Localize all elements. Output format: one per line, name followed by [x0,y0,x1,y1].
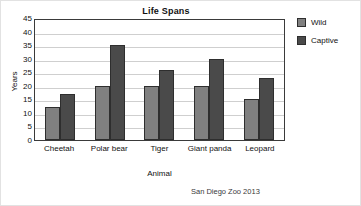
plot-area [34,19,285,141]
bar-tiger-wild[interactable] [144,86,159,140]
bar-leopard-wild[interactable] [244,99,259,140]
y-axis-tick-label: 20 [11,83,32,91]
bar-tiger-captive[interactable] [159,70,174,140]
y-axis-tick-label: 10 [11,110,32,118]
y-axis-tick-label: 45 [11,15,32,23]
x-axis-tick-labels: CheetahPolar bearTigerGiant pandaLeopard [34,144,285,170]
bar-cheetah-wild[interactable] [45,107,60,140]
bar-group [144,20,174,140]
y-axis-tick-label: 30 [11,56,32,64]
legend-entry-wild[interactable]: Wild [297,18,338,27]
legend-label: Captive [311,36,338,45]
bar-group [244,20,274,140]
legend-swatch-icon [297,18,306,27]
bar-polar-bear-wild[interactable] [95,86,110,140]
bar-giant-panda-captive[interactable] [209,59,224,140]
y-axis-tick-label: 35 [11,42,32,50]
bar-group [95,20,125,140]
legend-entry-captive[interactable]: Captive [297,36,338,45]
bar-cheetah-captive[interactable] [60,94,75,140]
bar-giant-panda-wild[interactable] [194,86,209,140]
x-axis-tick-label: Tiger [135,144,183,170]
bar-group [45,20,75,140]
x-axis-title: Animal [34,169,285,178]
y-axis-tick-labels: 454035302520151050 [11,19,32,141]
x-axis-tick-label: Cheetah [35,144,83,170]
chart-figure: Life Spans Years 454035302520151050 Chee… [0,0,361,206]
y-axis-tick-label: 15 [11,96,32,104]
bars-layer [35,20,284,140]
bar-polar-bear-captive[interactable] [110,45,125,140]
x-axis-tick-label: Leopard [236,144,284,170]
source-note: San Diego Zoo 2013 [191,187,260,196]
legend-swatch-icon [297,36,306,45]
bar-leopard-captive[interactable] [259,78,274,140]
chart-title: Life Spans [41,6,291,16]
y-axis-tick-label: 0 [11,137,32,145]
x-axis-tick-label: Polar bear [85,144,133,170]
bar-group [194,20,224,140]
chart-legend: WildCaptive [297,18,338,54]
y-axis-tick-label: 25 [11,69,32,77]
legend-label: Wild [311,18,327,27]
y-axis-tick-label: 40 [11,29,32,37]
x-axis-tick-label: Giant panda [186,144,234,170]
y-axis-tick-label: 5 [11,123,32,131]
